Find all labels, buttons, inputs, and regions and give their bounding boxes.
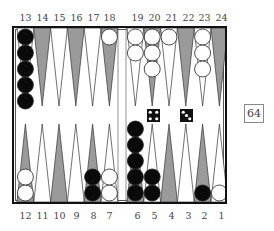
black-checker[interactable] — [127, 137, 143, 153]
point-17[interactable] — [84, 28, 101, 106]
point-label-11: 11 — [34, 210, 51, 221]
black-checker[interactable] — [144, 185, 160, 201]
white-checker[interactable] — [211, 185, 225, 201]
point-label-7: 7 — [101, 210, 118, 221]
point-24[interactable] — [211, 28, 225, 106]
black-checker[interactable] — [17, 77, 33, 93]
black-checker[interactable] — [127, 169, 143, 185]
white-checker[interactable] — [101, 29, 117, 45]
point-label-14: 14 — [34, 12, 51, 23]
black-checker[interactable] — [17, 29, 33, 45]
die-1 — [147, 109, 160, 122]
black-checker[interactable] — [144, 169, 160, 185]
point-label-13: 13 — [17, 12, 34, 23]
white-checker[interactable] — [195, 45, 211, 61]
point-label-12: 12 — [17, 210, 34, 221]
point-label-21: 21 — [163, 12, 180, 23]
bottom-point-labels: 12 11 10 9 8 7 6 5 4 3 2 1 — [0, 210, 274, 222]
black-checker[interactable] — [127, 153, 143, 169]
point-label-3: 3 — [180, 210, 197, 221]
point-10[interactable] — [51, 124, 68, 202]
point-label-5: 5 — [146, 210, 163, 221]
backgammon-board — [12, 26, 227, 204]
top-point-labels: 13 14 15 16 17 18 19 20 21 22 23 24 — [0, 12, 274, 24]
black-checker[interactable] — [17, 45, 33, 61]
black-checker[interactable] — [85, 169, 101, 185]
point-label-22: 22 — [180, 12, 197, 23]
point-label-23: 23 — [196, 12, 213, 23]
point-label-24: 24 — [213, 12, 230, 23]
point-16[interactable] — [67, 28, 84, 106]
white-checker[interactable] — [144, 29, 160, 45]
black-checker[interactable] — [85, 185, 101, 201]
white-checker[interactable] — [101, 169, 117, 185]
white-checker[interactable] — [195, 29, 211, 45]
point-label-8: 8 — [85, 210, 102, 221]
point-14[interactable] — [34, 28, 51, 106]
white-checker[interactable] — [127, 29, 143, 45]
white-checker[interactable] — [195, 61, 211, 77]
point-3[interactable] — [177, 124, 194, 202]
point-label-2: 2 — [196, 210, 213, 221]
point-4[interactable] — [161, 124, 178, 202]
white-checker[interactable] — [144, 61, 160, 77]
point-label-15: 15 — [51, 12, 68, 23]
board-graphics — [14, 28, 225, 202]
white-checker[interactable] — [17, 169, 33, 185]
black-checker[interactable] — [195, 185, 211, 201]
black-checker[interactable] — [127, 121, 143, 137]
dice — [147, 109, 193, 122]
point-label-4: 4 — [163, 210, 180, 221]
board-points — [17, 28, 225, 202]
point-label-16: 16 — [68, 12, 85, 23]
point-9[interactable] — [67, 124, 84, 202]
black-checker[interactable] — [17, 93, 33, 109]
white-checker[interactable] — [127, 45, 143, 61]
point-label-19: 19 — [129, 12, 146, 23]
point-22[interactable] — [177, 28, 194, 106]
point-label-17: 17 — [85, 12, 102, 23]
white-checker[interactable] — [101, 185, 117, 201]
point-label-10: 10 — [51, 210, 68, 221]
point-label-18: 18 — [101, 12, 118, 23]
white-checker[interactable] — [17, 185, 33, 201]
white-checker[interactable] — [144, 45, 160, 61]
point-label-20: 20 — [146, 12, 163, 23]
point-15[interactable] — [51, 28, 68, 106]
black-checker[interactable] — [17, 61, 33, 77]
point-11[interactable] — [34, 124, 51, 202]
die-2 — [180, 109, 193, 122]
point-label-6: 6 — [129, 210, 146, 221]
point-label-1: 1 — [213, 210, 230, 221]
white-checker[interactable] — [161, 29, 177, 45]
checkers[interactable] — [17, 29, 225, 201]
black-checker[interactable] — [127, 185, 143, 201]
point-label-9: 9 — [68, 210, 85, 221]
doubling-cube[interactable]: 64 — [244, 104, 264, 123]
